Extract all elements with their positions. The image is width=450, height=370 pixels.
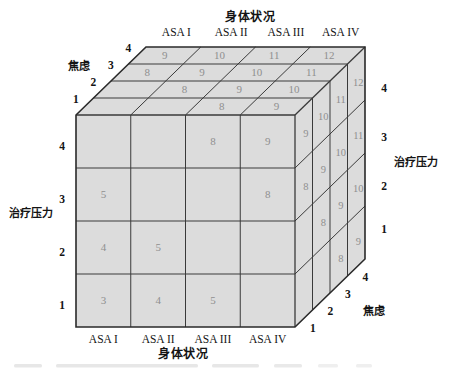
- asa-tick-bottom: ASA IV: [249, 333, 287, 345]
- remnant-mark: [274, 364, 302, 367]
- cell-value: 11: [306, 66, 317, 78]
- remnant-mark: [212, 364, 259, 367]
- cell-value: 10: [336, 147, 347, 158]
- cell-value: 8: [182, 83, 188, 95]
- cell-value: 8: [303, 181, 308, 192]
- cell-value: 9: [274, 100, 280, 112]
- stress-tick-left: 2: [59, 246, 65, 258]
- anxiety-tick-top: 4: [125, 42, 131, 54]
- anxiety-tick-bottom: 1: [310, 322, 316, 334]
- cell-value: 10: [288, 83, 300, 95]
- cell-value: 5: [155, 241, 161, 253]
- anxiety-tick-top: 2: [90, 76, 96, 88]
- physical-status-axis-title-bottom: 身体状况: [158, 346, 208, 361]
- asa-tick-top: ASA I: [162, 26, 191, 38]
- risk-cube-figure: 8958453459101112891011891089910111289101…: [0, 0, 450, 370]
- stress-tick-left: 4: [59, 140, 65, 152]
- asa-tick-bottom: ASA III: [195, 333, 232, 345]
- cell-value: 9: [321, 164, 326, 175]
- cell-value: 10: [318, 111, 329, 122]
- cell-value: 12: [323, 49, 334, 61]
- cell-value: 12: [353, 77, 364, 88]
- asa-tick-bottom: ASA II: [142, 333, 175, 345]
- asa-tick-top: ASA IV: [322, 26, 360, 38]
- cropped-caption-remnant: [14, 364, 372, 367]
- cell-value: 5: [210, 294, 216, 306]
- anxiety-tick-bottom: 2: [327, 305, 333, 317]
- treatment-stress-axis-title-left: 治疗压力: [9, 206, 54, 219]
- stress-tick-left: 3: [59, 193, 65, 205]
- cell-value: 8: [321, 217, 326, 228]
- cell-value: 8: [219, 100, 225, 112]
- anxiety-axis-title-bottom: 焦虑: [362, 304, 385, 317]
- anxiety-axis-title-top: 焦虑: [67, 59, 90, 72]
- cell-value: 9: [338, 200, 343, 211]
- cell-value: 11: [353, 130, 363, 141]
- remnant-mark: [356, 364, 372, 367]
- cell-value: 9: [303, 128, 308, 139]
- cell-value: 9: [356, 236, 361, 247]
- cell-value: 8: [265, 188, 271, 200]
- cell-value: 9: [199, 66, 205, 78]
- cell-value: 9: [162, 49, 168, 61]
- treatment-stress-axis-title-right: 治疗压力: [394, 155, 439, 168]
- cell-value: 10: [353, 183, 364, 194]
- remnant-mark: [56, 364, 198, 367]
- asa-tick-top: ASA II: [215, 26, 248, 38]
- stress-tick-right: 3: [381, 131, 387, 143]
- asa-tick-top: ASA III: [268, 26, 305, 38]
- anxiety-tick-bottom: 3: [345, 288, 351, 300]
- cell-value: 8: [144, 66, 150, 78]
- risk-cube-canvas: 8958453459101112891011891089910111289101…: [0, 0, 450, 370]
- anxiety-tick-top: 3: [108, 59, 114, 71]
- anxiety-tick-bottom: 4: [362, 271, 368, 283]
- cell-value: 8: [338, 253, 343, 264]
- anxiety-tick-top: 1: [73, 93, 79, 105]
- asa-tick-bottom: ASA I: [89, 333, 118, 345]
- cell-value: 9: [236, 83, 242, 95]
- cell-value: 10: [251, 66, 263, 78]
- stress-tick-right: 1: [381, 223, 387, 235]
- cell-value: 11: [336, 94, 346, 105]
- cell-value: 3: [101, 294, 107, 306]
- remnant-mark: [318, 364, 338, 367]
- stress-tick-left: 1: [59, 299, 65, 311]
- remnant-mark: [14, 364, 42, 367]
- cell-value: 5: [101, 188, 107, 200]
- cell-value: 11: [269, 49, 280, 61]
- stress-tick-right: 4: [381, 82, 387, 94]
- cell-value: 9: [265, 135, 271, 147]
- physical-status-axis-title-top: 身体状况: [225, 9, 275, 24]
- cell-value: 10: [214, 49, 226, 61]
- cell-value: 4: [155, 294, 161, 306]
- cell-value: 8: [210, 135, 216, 147]
- stress-tick-right: 2: [381, 180, 387, 192]
- cell-value: 4: [101, 241, 107, 253]
